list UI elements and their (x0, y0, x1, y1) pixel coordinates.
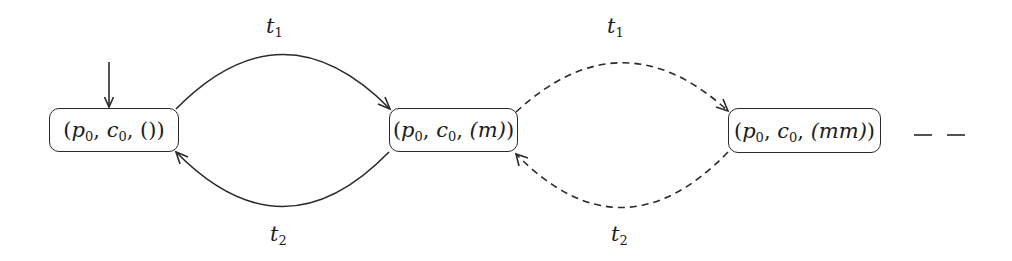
state-node-s1[interactable]: (p0, c0, (m)) (389, 108, 518, 152)
state-label: (p0, c0, ()) (63, 118, 164, 142)
state-diagram: (p0, c0, ()) (p0, c0, (m)) (p0, c0, (mm)… (0, 0, 1012, 261)
transition-label-e0: t1 (266, 14, 283, 38)
transition-arc-e1[interactable] (176, 152, 389, 207)
transition-label-e2: t1 (607, 14, 624, 38)
state-label: (p0, c0, (m)) (393, 118, 514, 142)
state-node-s0[interactable]: (p0, c0, ()) (49, 108, 179, 152)
transition-arc-e2[interactable] (516, 63, 728, 112)
transition-label-e1: t2 (270, 222, 287, 246)
transition-arc-e3[interactable] (516, 152, 728, 208)
transition-label-e3: t2 (611, 222, 628, 246)
state-label: (p0, c0, (mm)) (734, 119, 875, 143)
state-node-s2[interactable]: (p0, c0, (mm)) (728, 108, 881, 153)
transition-arc-e0[interactable] (176, 55, 390, 110)
